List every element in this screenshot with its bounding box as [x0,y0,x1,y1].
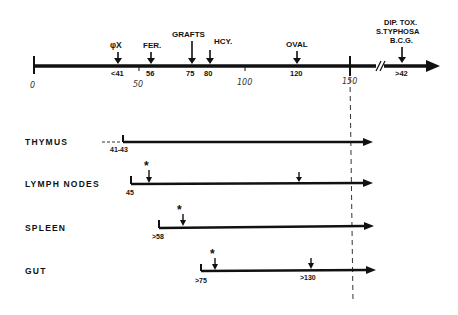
event-value: >42 [395,69,408,78]
down-arrow-icon [212,264,218,270]
organ-start-label: 45 [126,189,134,196]
arrowhead-icon [363,179,373,187]
arrowhead-icon [366,266,376,274]
event-phix: φX <41 [110,40,124,78]
event-value: 120 [290,69,303,78]
organ-start-label: 41-43 [110,146,128,153]
down-arrow-icon [398,57,406,63]
down-arrow-icon [114,58,122,64]
event-label-line-2: S.TYPHOSA [376,27,420,36]
event-hcy: HCY. 80 [204,37,232,78]
organ-label: GUT [25,266,47,276]
organ-row-spleen: SPLEEN * >58 [25,203,374,240]
ontogeny-timeline-diagram: 0 50 100 150 φX <41 FER. 56 GRAFTS 75 HC… [0,0,458,315]
down-arrow-icon [180,220,186,226]
organ-row-lymph-nodes: LYMPH NODES * 45 [25,159,373,196]
organ-start-label: >75 [195,277,207,284]
asterisk-icon: * [177,203,182,217]
down-arrow-icon [293,58,301,64]
event-label-line-1: DIP. TOX. [384,18,417,27]
asterisk-icon: * [210,247,215,261]
organ-start-label: >58 [152,233,164,240]
event-label: OVAL [286,40,308,49]
organ-label: THYMUS [25,137,68,147]
event-value: <41 [111,69,124,78]
late-down-arrow-icon [308,263,314,269]
event-value: 56 [146,69,154,78]
event-dip-tox-typhosa-bcg: DIP. TOX. S.TYPHOSA B.C.G. >42 [376,18,420,78]
arrowhead-icon [363,138,373,146]
main-time-axis [34,56,440,76]
tick-label-0: 0 [30,81,35,90]
event-grafts: GRAFTS 75 [172,30,206,78]
down-arrow-icon [146,177,152,183]
late-arrow-label: >130 [300,274,316,281]
event-fer: FER. 56 [143,41,161,78]
tick-label-100: 100 [237,78,252,87]
event-label-line-3: B.C.G. [390,36,413,45]
event-value: 75 [186,69,194,78]
organ-label: LYMPH NODES [25,179,100,189]
event-label: FER. [143,41,161,50]
organ-row-gut: GUT * >75 >130 [25,247,376,284]
axis-arrowhead-icon [426,60,440,72]
organ-row-thymus: THYMUS 41-43 [25,135,373,153]
arrowhead-icon [364,222,374,230]
asterisk-icon: * [144,159,149,173]
down-arrow-icon [206,58,214,64]
event-value: 80 [204,69,212,78]
organ-label: SPLEEN [25,223,66,233]
day-150-reference-line [350,78,353,302]
event-label: φX [110,40,122,50]
down-arrow-icon [188,58,196,64]
late-down-arrow-icon [296,177,302,182]
event-label: HCY. [214,37,232,46]
down-arrow-icon [147,58,155,64]
event-label: GRAFTS [172,30,206,39]
axis-break-icon [376,61,385,71]
event-oval: OVAL 120 [286,40,308,78]
tick-label-50: 50 [133,80,143,89]
